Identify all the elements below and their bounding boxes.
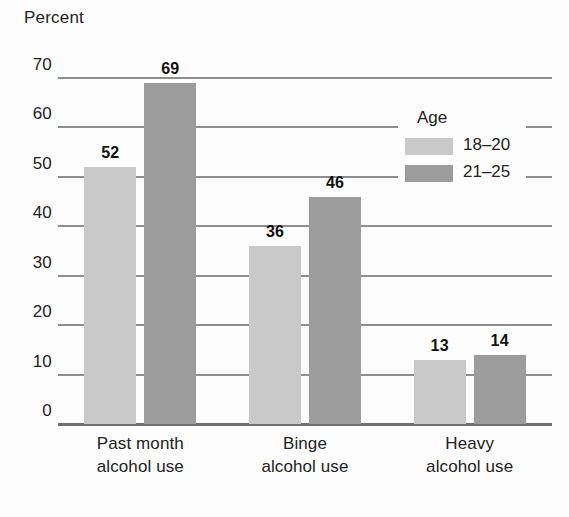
x-label-line: Past month	[58, 432, 223, 455]
x-label-line: Heavy	[387, 432, 552, 455]
x-axis-label-group-1: Bingealcohol use	[223, 432, 388, 478]
legend: Age 18–2021–25	[398, 108, 526, 190]
y-tick-label-0: 0	[8, 401, 52, 421]
bar-value-label-21–25-2: 14	[464, 332, 536, 350]
legend-label-1: 21–25	[463, 162, 510, 182]
x-label-line: alcohol use	[387, 455, 552, 478]
legend-swatch-21–25	[405, 165, 453, 182]
legend-title: Age	[417, 108, 447, 128]
x-label-line: alcohol use	[58, 455, 223, 478]
bar-21–25-0	[144, 83, 196, 424]
bar-chart: Percent 706050403020100 526936461314 Pas…	[0, 0, 569, 517]
x-axis-label-group-0: Past monthalcohol use	[58, 432, 223, 478]
y-tick-label-50: 50	[8, 154, 52, 174]
bar-18–20-2	[414, 360, 466, 424]
bar-18–20-0	[84, 167, 136, 424]
y-tick-label-10: 10	[8, 352, 52, 372]
bar-value-label-18–20-1: 36	[239, 223, 311, 241]
bar-21–25-1	[309, 197, 361, 424]
x-axis-category-labels: Past monthalcohol useBingealcohol useHea…	[58, 432, 552, 492]
y-tick-label-20: 20	[8, 302, 52, 322]
bar-value-label-21–25-0: 69	[134, 60, 206, 78]
x-axis-label-group-2: Heavyalcohol use	[387, 432, 552, 478]
legend-label-0: 18–20	[463, 135, 510, 155]
bar-18–20-1	[249, 246, 301, 424]
bar-value-label-18–20-0: 52	[74, 144, 146, 162]
y-axis-title: Percent	[24, 8, 84, 28]
y-tick-label-30: 30	[8, 253, 52, 273]
x-label-line: Binge	[223, 432, 388, 455]
bar-value-label-21–25-1: 46	[299, 174, 371, 192]
y-tick-label-70: 70	[8, 55, 52, 75]
legend-swatch-18–20	[405, 138, 453, 155]
bar-21–25-2	[474, 355, 526, 424]
x-label-line: alcohol use	[223, 455, 388, 478]
y-tick-label-40: 40	[8, 203, 52, 223]
y-tick-label-60: 60	[8, 104, 52, 124]
